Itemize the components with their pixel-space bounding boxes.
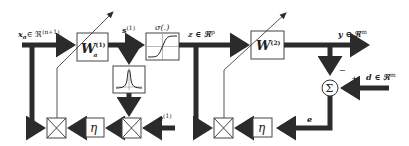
multiplier-mid <box>122 118 141 138</box>
summing-junction: Σ <box>322 80 338 96</box>
w1-adjust-line <box>57 12 113 118</box>
w2-adjust-line <box>224 13 286 118</box>
sigmoid-activation-block <box>146 33 179 60</box>
svg-text:η: η <box>90 121 98 135</box>
learning-rate-block-right: η <box>253 118 272 137</box>
e1-label: e(1) <box>158 112 172 123</box>
plus-sign: + <box>351 74 358 83</box>
weight-block-w1: W(1)a <box>77 33 108 61</box>
input-signal-line <box>22 45 72 128</box>
neural-network-diagram: xa∈ ℜ(n+1) W(1)a s(1) σ(.) e(1) <box>0 0 409 146</box>
sigma-label: σ(.) <box>155 23 169 32</box>
target-label: d ∈ ℜm <box>366 71 396 82</box>
z-signal-line <box>179 45 246 128</box>
error-label: e <box>307 114 312 124</box>
multiplier-left <box>47 118 66 138</box>
derivative-block <box>113 66 145 93</box>
multiplier-right <box>214 118 233 138</box>
svg-text:η: η <box>258 121 266 135</box>
z-label: z ∈ ℜp <box>187 28 215 39</box>
minus-sign: − <box>339 66 346 75</box>
weight-block-w2: W(2) <box>251 31 284 59</box>
learning-rate-block-left: η <box>86 118 104 137</box>
output-label: y ∈ ℜm <box>337 28 367 39</box>
s1-label: s(1) <box>122 24 135 35</box>
sigma-sum-icon: Σ <box>326 82 334 95</box>
input-label: xa∈ ℜ(n+1) <box>17 28 60 40</box>
